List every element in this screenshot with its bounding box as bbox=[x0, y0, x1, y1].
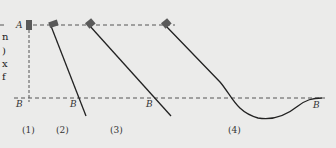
label-b-3: B bbox=[145, 99, 153, 109]
case-1: A B (1) bbox=[15, 20, 35, 135]
caption-3: (3) bbox=[110, 125, 123, 135]
caption-2: (2) bbox=[56, 125, 69, 135]
case-4: B (4) bbox=[161, 18, 322, 135]
edge-text-1: ) bbox=[2, 45, 6, 56]
case-3: B (3) bbox=[85, 18, 171, 135]
label-b-2: B bbox=[69, 99, 77, 109]
case-2: B (2) bbox=[48, 20, 86, 135]
edge-text-3: f bbox=[2, 71, 7, 82]
block-icon bbox=[48, 20, 58, 28]
block-icon bbox=[85, 18, 96, 29]
edge-text-0: n bbox=[2, 31, 9, 42]
block-icon bbox=[26, 20, 32, 30]
caption-4: (4) bbox=[228, 125, 241, 135]
label-b-1: B bbox=[15, 99, 23, 109]
label-a: A bbox=[15, 20, 23, 30]
block-icon bbox=[161, 18, 172, 29]
diagram: n ) x f A B (1) B (2) B (3) B (4) bbox=[0, 0, 336, 148]
label-b-4: B bbox=[312, 100, 320, 110]
diagram-canvas: n ) x f A B (1) B (2) B (3) B (4) bbox=[0, 0, 336, 148]
edge-text-2: x bbox=[2, 58, 8, 69]
incline-path bbox=[51, 26, 86, 116]
caption-1: (1) bbox=[22, 125, 35, 135]
curved-path bbox=[165, 25, 322, 119]
incline-path bbox=[89, 25, 171, 116]
